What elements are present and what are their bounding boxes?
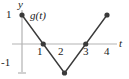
y-tick-label-1: 1 — [6, 9, 12, 20]
x-tick-label-1: 1 — [37, 46, 43, 57]
x-tick-label-2: 2 — [58, 46, 64, 57]
data-point-t4 — [104, 12, 109, 17]
data-point-t0 — [19, 12, 24, 17]
plot-canvas — [0, 0, 129, 79]
y-tick-label-neg-1: -1 — [1, 57, 10, 68]
x-tick-label-3: 3 — [83, 46, 89, 57]
data-point-t2 — [62, 70, 67, 75]
x-axis-label: t — [119, 38, 122, 49]
function-graph-figure: y t g(t) 1 -1 1 2 3 4 — [0, 0, 129, 79]
y-axis-label: y — [18, 0, 23, 10]
x-tick-label-4: 4 — [104, 46, 110, 57]
function-label-gt: g(t) — [30, 10, 46, 21]
